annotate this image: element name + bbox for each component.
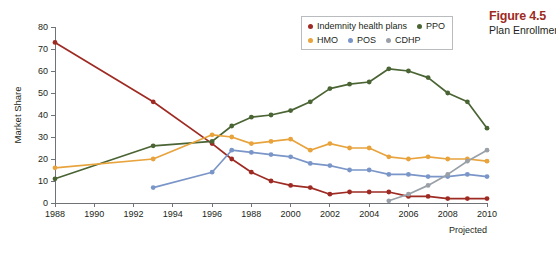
series-ppo: [53, 66, 490, 181]
data-point: [485, 196, 490, 201]
x-tick-label: 1992: [124, 209, 144, 219]
legend-marker-icon: [308, 24, 313, 29]
data-point: [347, 146, 352, 151]
data-point: [308, 185, 313, 190]
data-point: [229, 135, 234, 140]
data-point: [426, 194, 431, 199]
data-point: [151, 143, 156, 148]
data-point: [288, 154, 293, 159]
data-point: [249, 170, 254, 175]
legend-row: Indemnity health plansPPO: [308, 20, 445, 32]
y-tick-label: 0: [43, 198, 48, 208]
data-point: [386, 66, 391, 71]
series-pos: [151, 148, 490, 190]
data-point: [249, 115, 254, 120]
data-point: [210, 132, 215, 137]
data-point: [328, 163, 333, 168]
figure-caption: Plan Enrollment: [489, 24, 555, 37]
legend-label: Indemnity health plans: [317, 21, 407, 31]
data-point: [269, 113, 274, 118]
data-point: [406, 192, 411, 197]
chart-axes: 0102030405060708019881990199219941996198…: [38, 22, 497, 219]
data-point: [367, 80, 372, 85]
data-point: [465, 172, 470, 177]
data-point: [367, 190, 372, 195]
x-tick-label: 1996: [202, 209, 222, 219]
y-tick-label: 10: [38, 176, 48, 186]
data-point: [151, 185, 156, 190]
legend-marker-icon: [348, 38, 353, 43]
data-point: [229, 157, 234, 162]
data-point: [328, 86, 333, 91]
legend-row: HMOPOSCDHP: [308, 34, 445, 46]
legend-entry: Indemnity health plans: [308, 21, 407, 31]
x-tick-label: 2000: [281, 209, 301, 219]
series-hmo: [53, 132, 490, 170]
data-point: [151, 99, 156, 104]
data-point: [426, 154, 431, 159]
chart-series: [53, 40, 490, 203]
x-tick-label: 2010: [477, 209, 497, 219]
x-tick-label: 1988: [241, 209, 261, 219]
data-point: [269, 139, 274, 144]
y-tick-label: 40: [38, 110, 48, 120]
data-point: [386, 154, 391, 159]
data-point: [288, 183, 293, 188]
data-point: [308, 161, 313, 166]
data-point: [485, 174, 490, 179]
data-point: [308, 148, 313, 153]
data-point: [249, 141, 254, 146]
data-point: [288, 108, 293, 113]
legend-label: PPO: [426, 21, 445, 31]
data-point: [53, 165, 58, 170]
data-point: [347, 190, 352, 195]
data-point: [426, 75, 431, 80]
x-tick-label: 2002: [320, 209, 340, 219]
data-point: [386, 198, 391, 203]
figure-root: 0102030405060708019881990199219941996198…: [0, 0, 556, 262]
data-point: [445, 91, 450, 96]
data-point: [210, 170, 215, 175]
data-point: [445, 172, 450, 177]
data-point: [445, 196, 450, 201]
data-point: [229, 124, 234, 129]
data-point: [229, 148, 234, 153]
x-tick-label: 1988: [45, 209, 65, 219]
chart-plot-area: 0102030405060708019881990199219941996198…: [0, 0, 556, 262]
data-point: [347, 82, 352, 87]
data-point: [269, 179, 274, 184]
data-point: [485, 126, 490, 131]
data-point: [406, 157, 411, 162]
data-point: [465, 99, 470, 104]
data-point: [485, 159, 490, 164]
y-tick-label: 30: [38, 132, 48, 142]
y-tick-label: 60: [38, 66, 48, 76]
data-point: [249, 150, 254, 155]
data-point: [367, 168, 372, 173]
legend-entry: CDHP: [386, 35, 421, 45]
data-point: [426, 183, 431, 188]
data-point: [386, 190, 391, 195]
data-point: [485, 148, 490, 153]
data-point: [288, 137, 293, 142]
y-tick-label: 70: [38, 44, 48, 54]
series-line: [153, 150, 487, 187]
x-tick-label: 2008: [438, 209, 458, 219]
data-point: [347, 168, 352, 173]
x-tick-label: 2004: [359, 209, 379, 219]
projected-annotation: Projected: [449, 225, 487, 235]
x-tick-label: 2006: [398, 209, 418, 219]
data-point: [445, 157, 450, 162]
legend-entry: PPO: [417, 21, 445, 31]
y-tick-label: 20: [38, 154, 48, 164]
data-point: [308, 99, 313, 104]
data-point: [426, 174, 431, 179]
x-tick-label: 1990: [84, 209, 104, 219]
x-tick-label: 1994: [163, 209, 183, 219]
legend-marker-icon: [417, 24, 422, 29]
legend-marker-icon: [308, 38, 313, 43]
data-point: [151, 157, 156, 162]
data-point: [210, 139, 215, 144]
legend-label: HMO: [317, 35, 338, 45]
data-point: [465, 159, 470, 164]
